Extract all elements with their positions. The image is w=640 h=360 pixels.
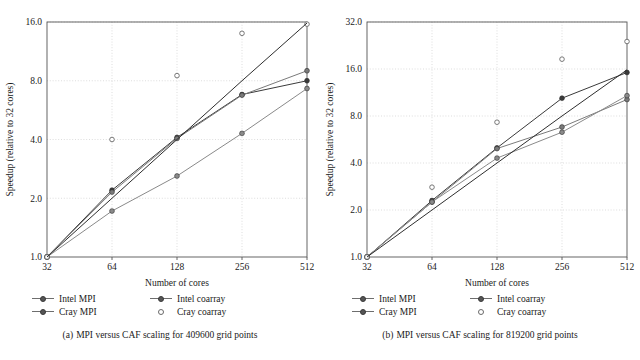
plot-area-b: 1.02.04.08.016.032.03264128256512Number …	[320, 0, 640, 292]
line-filled-circle-icon	[30, 306, 56, 318]
svg-text:Number of cores: Number of cores	[465, 278, 529, 288]
svg-text:64: 64	[427, 262, 437, 272]
caption-text: MPI versus CAF scaling for 819200 grid p…	[396, 330, 577, 340]
svg-text:128: 128	[170, 262, 185, 272]
svg-text:1.0: 1.0	[350, 252, 362, 262]
svg-text:8.0: 8.0	[30, 76, 42, 86]
line-filled-circle-icon	[30, 293, 56, 305]
svg-text:64: 64	[107, 262, 117, 272]
chart-panel-b: 1.02.04.08.016.032.03264128256512Number …	[320, 0, 640, 360]
svg-text:16.0: 16.0	[345, 64, 362, 74]
legend-label: Intel MPI	[56, 294, 96, 304]
legend-label: Intel coarray	[494, 294, 545, 304]
line-filled-circle-icon	[468, 293, 494, 305]
caption-tag: (a)	[63, 330, 74, 340]
svg-text:256: 256	[555, 262, 570, 272]
svg-text:4.0: 4.0	[350, 158, 362, 168]
svg-text:256: 256	[235, 262, 250, 272]
figure-container: 1.02.04.08.016.03264128256512Number of c…	[0, 0, 640, 360]
svg-text:Number of cores: Number of cores	[145, 278, 209, 288]
svg-text:Speedup (relative to 32 cores): Speedup (relative to 32 cores)	[5, 83, 16, 197]
svg-text:32: 32	[42, 262, 52, 272]
line-filled-circle-icon	[350, 306, 376, 318]
svg-text:512: 512	[300, 262, 315, 272]
svg-text:128: 128	[490, 262, 505, 272]
open-circle-icon	[148, 306, 174, 318]
legend-label: Cray coarray	[174, 307, 226, 317]
caption-tag: (b)	[382, 330, 393, 340]
line-filled-circle-icon	[148, 293, 174, 305]
legend-label: Cray MPI	[56, 307, 97, 317]
legend-item-intel-coarray: Intel coarray	[468, 292, 588, 305]
caption-a: (a)MPI versus CAF scaling for 409600 gri…	[0, 330, 320, 340]
chart-panel-a: 1.02.04.08.016.03264128256512Number of c…	[0, 0, 320, 360]
svg-text:32: 32	[362, 262, 372, 272]
caption-b: (b)MPI versus CAF scaling for 819200 gri…	[320, 330, 640, 340]
line-filled-circle-icon	[350, 293, 376, 305]
svg-text:16.0: 16.0	[25, 17, 42, 27]
legend-item-intel-mpi: Intel MPI	[30, 292, 148, 305]
svg-text:1.0: 1.0	[30, 252, 42, 262]
legend-b: Intel MPI Intel coarray Cray MPI	[320, 292, 640, 326]
legend-item-cray-mpi: Cray MPI	[350, 305, 468, 318]
open-circle-icon	[468, 306, 494, 318]
svg-text:8.0: 8.0	[350, 111, 362, 121]
svg-text:Speedup (relative to 32 cores): Speedup (relative to 32 cores)	[325, 83, 336, 197]
svg-text:4.0: 4.0	[30, 135, 42, 145]
legend-item-intel-mpi: Intel MPI	[350, 292, 468, 305]
legend-label: Intel MPI	[376, 294, 416, 304]
svg-text:512: 512	[620, 262, 635, 272]
legend-item-intel-coarray: Intel coarray	[148, 292, 268, 305]
legend-item-cray-coarray: Cray coarray	[468, 305, 588, 318]
legend-a: Intel MPI Intel coarray Cray MPI	[0, 292, 320, 326]
svg-text:32.0: 32.0	[345, 17, 362, 27]
caption-text: MPI versus CAF scaling for 409600 grid p…	[76, 330, 257, 340]
legend-item-cray-mpi: Cray MPI	[30, 305, 148, 318]
svg-text:2.0: 2.0	[30, 194, 42, 204]
legend-label: Cray MPI	[376, 307, 417, 317]
plot-area-a: 1.02.04.08.016.03264128256512Number of c…	[0, 0, 320, 292]
legend-label: Cray coarray	[494, 307, 546, 317]
svg-text:2.0: 2.0	[350, 205, 362, 215]
legend-label: Intel coarray	[174, 294, 225, 304]
legend-item-cray-coarray: Cray coarray	[148, 305, 268, 318]
